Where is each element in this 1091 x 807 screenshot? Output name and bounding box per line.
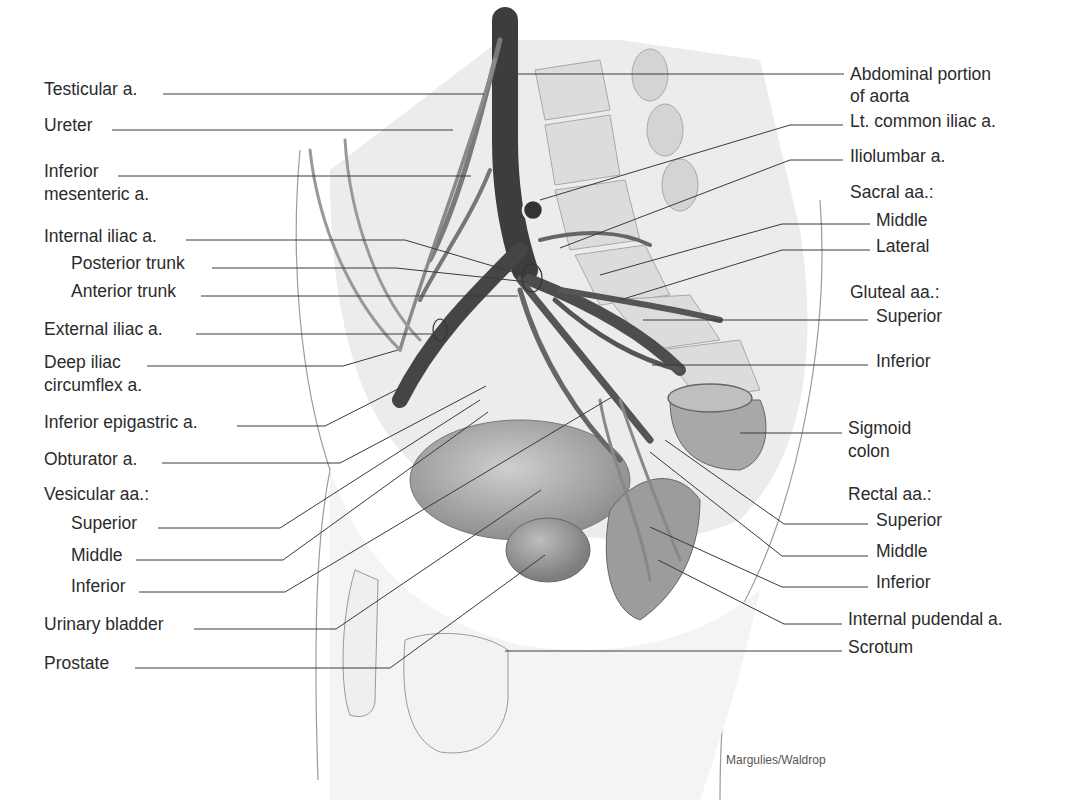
label-gluteal-inferior: Inferior xyxy=(876,351,930,371)
label-deep-iliac-line1: Deep iliac xyxy=(44,352,121,372)
label-abdominal-aorta-line2: of aorta xyxy=(850,86,909,106)
prostate-shape xyxy=(506,518,590,582)
label-abdominal-aorta-line1: Abdominal portion xyxy=(850,64,991,84)
label-inferior-mesenteric-line2: mesenteric a. xyxy=(44,184,149,204)
label-sacral-heading: Sacral aa.: xyxy=(850,182,934,202)
label-vesicular-heading: Vesicular aa.: xyxy=(44,484,149,504)
label-gluteal-heading: Gluteal aa.: xyxy=(850,282,940,302)
label-testicular-artery: Testicular a. xyxy=(44,79,137,99)
label-internal-pudendal: Internal pudendal a. xyxy=(848,609,1003,629)
label-scrotum: Scrotum xyxy=(848,637,913,657)
label-posterior-trunk: Posterior trunk xyxy=(71,253,185,273)
label-inferior-mesenteric-line1: Inferior xyxy=(44,161,98,181)
label-urinary-bladder: Urinary bladder xyxy=(44,614,164,634)
label-external-iliac: External iliac a. xyxy=(44,319,163,339)
label-sacral-middle: Middle xyxy=(876,210,928,230)
label-vesicular-inferior: Inferior xyxy=(71,576,125,596)
label-sigmoid-colon-line1: Sigmoid xyxy=(848,418,911,438)
label-anterior-trunk: Anterior trunk xyxy=(71,281,176,301)
label-sigmoid-colon-line2: colon xyxy=(848,441,890,461)
pelvic-arteries-figure: Testicular a. Ureter Inferior mesenteric… xyxy=(0,0,1091,807)
label-gluteal-superior: Superior xyxy=(876,306,942,326)
sigmoid-opening xyxy=(668,384,752,412)
label-iliolumbar: Iliolumbar a. xyxy=(850,146,945,166)
label-obturator: Obturator a. xyxy=(44,449,137,469)
scrotum-shape xyxy=(404,633,508,753)
label-prostate: Prostate xyxy=(44,653,109,673)
label-ureter: Ureter xyxy=(44,115,93,135)
label-inferior-epigastric: Inferior epigastric a. xyxy=(44,412,198,432)
label-vesicular-superior: Superior xyxy=(71,513,137,533)
rectum-shape xyxy=(606,479,700,620)
label-rectal-middle: Middle xyxy=(876,541,928,561)
label-vesicular-middle: Middle xyxy=(71,545,123,565)
label-sacral-lateral: Lateral xyxy=(876,236,930,256)
lt-common-iliac-cut xyxy=(523,200,543,220)
label-rectal-superior: Superior xyxy=(876,510,942,530)
label-internal-iliac: Internal iliac a. xyxy=(44,226,157,246)
illustrator-credit: Margulies/Waldrop xyxy=(726,753,826,767)
label-rectal-inferior: Inferior xyxy=(876,572,930,592)
label-lt-common-iliac: Lt. common iliac a. xyxy=(850,111,996,131)
label-deep-iliac-line2: circumflex a. xyxy=(44,375,142,395)
label-rectal-heading: Rectal aa.: xyxy=(848,484,932,504)
